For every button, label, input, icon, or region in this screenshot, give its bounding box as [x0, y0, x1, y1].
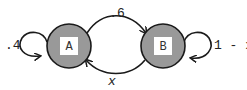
edge-label-b-to-a: x — [107, 74, 116, 89]
state-diagram: .6 x .4 1 - x A B — [0, 0, 247, 90]
node-b: B — [141, 24, 185, 68]
edge-label-a-self: .4 — [5, 38, 21, 53]
node-b-label: B — [159, 40, 166, 54]
edge-b-self-loop — [184, 32, 211, 58]
node-a-label: A — [65, 40, 73, 54]
node-a: A — [47, 24, 91, 68]
edge-label-a-to-b: .6 — [109, 6, 125, 21]
edge-a-self-loop — [20, 32, 47, 56]
edge-b-to-a — [86, 60, 145, 74]
edge-label-b-self: 1 - x — [214, 38, 247, 53]
